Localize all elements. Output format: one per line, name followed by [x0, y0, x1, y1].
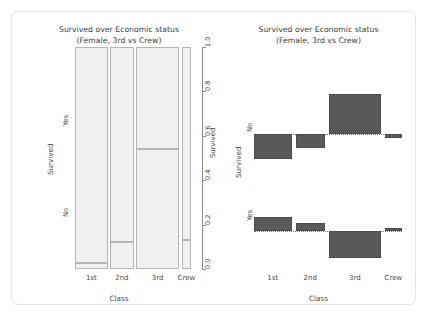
- mosaic-right-tick-label: 0.0: [204, 259, 212, 270]
- assoc-bar-yes-1st: [254, 217, 292, 231]
- assoc-title-line1: Survived over Economic status: [259, 25, 379, 34]
- mosaic-column-2nd: [110, 47, 133, 269]
- assoc-title-line2: (Female, 3rd vs Crew): [220, 36, 417, 47]
- mosaic-column-1st: [75, 47, 108, 269]
- mosaic-cell-2nd-yes: [110, 47, 133, 242]
- mosaic-cell-3rd-yes: [136, 47, 179, 149]
- mosaic-right-tick: [202, 180, 206, 181]
- mosaic-plot: Survived over Economic status (Female, 3…: [18, 12, 220, 306]
- mosaic-right-axis-title: Survived: [209, 128, 217, 158]
- mosaic-row-label-no: No: [62, 208, 70, 217]
- assoc-bar-no-3rd: [329, 94, 381, 134]
- mosaic-cell-crew-yes: [182, 47, 192, 240]
- mosaic-tiles-region: [75, 47, 197, 269]
- mosaic-cell-3rd-no: [136, 149, 179, 269]
- mosaic-y-axis-title: Survived: [46, 143, 55, 175]
- assoc-bar-no-crew: [385, 134, 402, 139]
- assoc-x-label-2nd: 2nd: [304, 274, 317, 282]
- mosaic-x-label-1st: 1st: [86, 274, 97, 282]
- assoc-x-label-1st: 1st: [267, 274, 278, 282]
- mosaic-cell-crew-no: [182, 240, 192, 269]
- assoc-row-label-yes: Yes: [246, 210, 254, 221]
- mosaic-cell-2nd-no: [110, 242, 133, 269]
- mosaic-cell-1st-yes: [75, 47, 108, 263]
- mosaic-right-tick-label: 1.0: [204, 37, 212, 48]
- assoc-x-label-crew: Crew: [385, 274, 403, 282]
- mosaic-right-tick: [202, 91, 206, 92]
- mosaic-right-tick-label: 0.2: [204, 214, 212, 225]
- mosaic-right-axis: 0.00.20.40.60.81.0: [202, 47, 203, 269]
- association-bars-region: [254, 48, 402, 262]
- mosaic-title-line1: Survived over Economic status: [59, 25, 179, 34]
- assoc-bar-no-2nd: [296, 134, 325, 148]
- association-plot: Survived over Economic status (Female, 3…: [220, 12, 417, 306]
- mosaic-x-axis-title: Class: [18, 294, 220, 303]
- mosaic-x-label-2nd: 2nd: [115, 274, 128, 282]
- mosaic-title-line2: (Female, 3rd vs Crew): [18, 36, 220, 47]
- mosaic-plot-title: Survived over Economic status (Female, 3…: [18, 25, 220, 46]
- mosaic-right-tick-label: 0.4: [204, 170, 212, 181]
- assoc-bar-yes-crew: [385, 228, 402, 231]
- mosaic-column-crew: [182, 47, 192, 269]
- assoc-x-label-3rd: 3rd: [349, 274, 361, 282]
- figure-panel: Survived over Economic status (Female, 3…: [11, 11, 416, 305]
- mosaic-x-label-crew: Crew: [178, 274, 196, 282]
- assoc-bar-yes-3rd: [329, 231, 381, 258]
- assoc-row-label-no: No: [246, 123, 254, 132]
- mosaic-column-3rd: [136, 47, 179, 269]
- assoc-y-axis-title: Survived: [234, 146, 243, 178]
- mosaic-row-label-yes: Yes: [62, 115, 70, 126]
- mosaic-cell-1st-no: [75, 263, 108, 269]
- assoc-bar-yes-2nd: [296, 223, 325, 231]
- mosaic-right-tick: [202, 47, 206, 48]
- mosaic-x-label-3rd: 3rd: [152, 274, 164, 282]
- mosaic-right-tick: [202, 269, 206, 270]
- association-plot-title: Survived over Economic status (Female, 3…: [220, 25, 417, 46]
- assoc-bar-no-1st: [254, 134, 292, 159]
- mosaic-right-tick-label: 0.8: [204, 81, 212, 92]
- assoc-x-axis-title: Class: [220, 294, 417, 303]
